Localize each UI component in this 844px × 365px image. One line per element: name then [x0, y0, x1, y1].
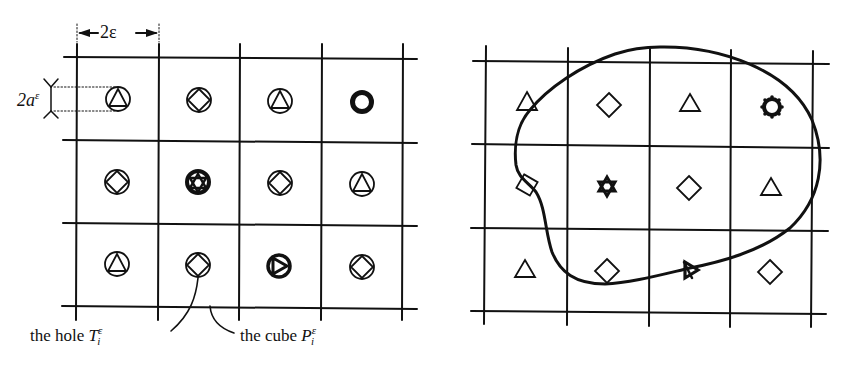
right-cell-r3c4	[758, 260, 782, 284]
left-cell-r2c2	[187, 171, 209, 193]
cube-callout-label: the cube Pεi	[240, 327, 314, 344]
cube-callout-sub: i	[311, 335, 314, 347]
cell-width-text: 2ε	[100, 22, 117, 42]
right-cell-r1c4	[760, 95, 784, 119]
domain-boundary-curve	[515, 47, 820, 284]
right-cell-r3c1	[515, 260, 535, 277]
right-cell-r2c3	[677, 176, 701, 200]
cell-width-dimension	[77, 24, 159, 42]
left-cell-r2c3	[268, 171, 292, 195]
hole-diameter-text: 2a	[17, 90, 35, 110]
left-cell-r1c1	[106, 87, 130, 111]
hole-callout-label: the hole Tεi	[30, 327, 100, 344]
left-cell-r1c4	[353, 93, 372, 112]
cube-callout-prefix: the cube	[240, 326, 301, 345]
left-cell-r1c2	[187, 88, 211, 112]
right-cell-r1c3	[680, 94, 700, 111]
hole-callout-prefix: the hole	[30, 326, 89, 345]
hole-leader-line	[171, 278, 198, 331]
hole-diameter-label: 2aε	[17, 91, 39, 109]
left-cell-r3c3	[268, 255, 290, 277]
right-cell-r3c2	[595, 259, 619, 283]
right-cell-r1c2	[597, 93, 621, 117]
cell-width-label: 2ε	[100, 23, 117, 41]
left-cell-r3c1	[105, 252, 129, 276]
left-cell-r3c2	[186, 253, 210, 277]
left-cell-r2c1	[105, 170, 129, 194]
right-cell-r2c2	[599, 177, 615, 196]
figure-canvas	[0, 0, 844, 365]
hole-callout-sub: i	[97, 335, 100, 347]
left-cell-r2c4	[350, 172, 374, 196]
left-cell-r3c4	[350, 255, 374, 279]
hole-diameter-sup: ε	[35, 89, 39, 101]
cube-leader-line	[210, 306, 234, 333]
right-cell-r2c4	[761, 178, 781, 195]
left-cell-r1c3	[268, 89, 292, 113]
